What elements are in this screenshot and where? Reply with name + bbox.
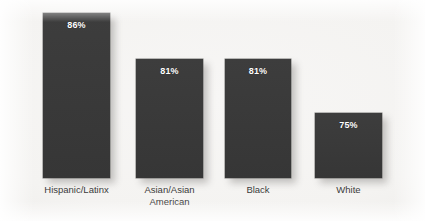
bar-hispanic-latinx: 86% <box>43 13 110 178</box>
bar-value-label: 81% <box>136 66 203 77</box>
bar-white: 75% <box>315 113 382 178</box>
bar-group-asian-asian-american: 81% Asian/Asian American <box>136 59 203 178</box>
category-label-white: White <box>293 184 404 196</box>
bar-value-label: 75% <box>315 120 382 131</box>
chart-plot-area: 86% Hispanic/Latinx 81% Asian/Asian Amer… <box>0 0 425 221</box>
bar-chart-figure: 86% Hispanic/Latinx 81% Asian/Asian Amer… <box>0 0 425 221</box>
bar-black: 81% <box>225 59 291 178</box>
bar-value-label: 81% <box>225 66 291 77</box>
bar-group-white: 75% White <box>315 113 382 178</box>
bar-asian-asian-american: 81% <box>136 59 203 178</box>
bar-group-black: 81% Black <box>225 59 291 178</box>
bar-value-label: 86% <box>43 20 110 31</box>
bar-group-hispanic-latinx: 86% Hispanic/Latinx <box>43 13 110 178</box>
